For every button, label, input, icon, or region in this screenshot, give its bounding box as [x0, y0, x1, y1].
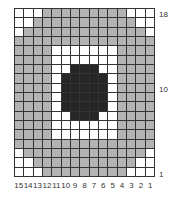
chart-cell — [52, 46, 61, 55]
col-label: 12 — [42, 181, 51, 190]
chart-cell — [80, 37, 89, 46]
chart-cell — [146, 158, 155, 167]
chart-cell — [146, 93, 155, 102]
chart-cell — [90, 46, 99, 55]
row-label-1: 1 — [159, 171, 163, 179]
chart-cell — [34, 65, 43, 74]
chart-cell — [146, 149, 155, 158]
chart-cell — [146, 140, 155, 149]
col-label: 3 — [127, 181, 136, 190]
chart-cell — [118, 46, 127, 55]
chart-cell — [146, 65, 155, 74]
chart-cell — [108, 112, 117, 121]
chart-cell — [136, 28, 145, 37]
chart-cell — [108, 65, 117, 74]
chart-cell — [118, 102, 127, 111]
chart-cell — [62, 37, 71, 46]
chart-cell — [52, 112, 61, 121]
chart-cell — [43, 65, 52, 74]
chart-cell — [15, 84, 24, 93]
chart-cell — [80, 140, 89, 149]
chart-cell — [80, 84, 89, 93]
chart-cell — [127, 37, 136, 46]
chart-cell — [80, 56, 89, 65]
chart-cell — [136, 102, 145, 111]
chart-cell — [24, 112, 33, 121]
chart-cell — [146, 74, 155, 83]
col-label: 11 — [52, 181, 61, 190]
chart-cell — [52, 18, 61, 27]
chart-cell — [146, 37, 155, 46]
chart-cell — [15, 102, 24, 111]
chart-cell — [146, 102, 155, 111]
chart-cell — [43, 102, 52, 111]
chart-cell — [99, 140, 108, 149]
col-label: 2 — [136, 181, 145, 190]
chart-cell — [136, 18, 145, 27]
chart-cell — [136, 93, 145, 102]
chart-cell — [99, 46, 108, 55]
chart-cell — [24, 65, 33, 74]
chart-cell — [71, 28, 80, 37]
chart-cell — [127, 46, 136, 55]
chart-cell — [71, 102, 80, 111]
chart-cell — [43, 140, 52, 149]
chart-cell — [99, 74, 108, 83]
chart-cell — [127, 84, 136, 93]
col-label: 15 — [14, 181, 23, 190]
chart-cell — [80, 9, 89, 18]
chart-cell — [108, 9, 117, 18]
chart-cell — [80, 158, 89, 167]
chart-cell — [24, 18, 33, 27]
chart-cell — [15, 56, 24, 65]
chart-cell — [118, 28, 127, 37]
chart-cell — [136, 121, 145, 130]
chart-cell — [52, 65, 61, 74]
chart-cell — [146, 84, 155, 93]
chart-cell — [146, 121, 155, 130]
chart-cell — [24, 140, 33, 149]
chart-cell — [34, 46, 43, 55]
chart-cell — [90, 9, 99, 18]
col-label: 6 — [99, 181, 108, 190]
chart-cell — [34, 37, 43, 46]
chart-cell — [118, 84, 127, 93]
chart-cell — [108, 74, 117, 83]
chart-cell — [118, 18, 127, 27]
chart-cell — [90, 56, 99, 65]
chart-cell — [99, 93, 108, 102]
chart-cell — [24, 130, 33, 139]
col-label: 4 — [117, 181, 126, 190]
chart-cell — [90, 130, 99, 139]
chart-cell — [118, 130, 127, 139]
chart-cell — [43, 74, 52, 83]
chart-cell — [127, 112, 136, 121]
col-label: 14 — [23, 181, 32, 190]
col-label: 8 — [80, 181, 89, 190]
chart-cell — [127, 121, 136, 130]
chart-cell — [80, 18, 89, 27]
chart-cell — [90, 37, 99, 46]
chart-cell — [80, 149, 89, 158]
chart-cell — [127, 56, 136, 65]
chart-cell — [43, 130, 52, 139]
chart-cell — [15, 9, 24, 18]
chart-cell — [99, 84, 108, 93]
chart-cell — [15, 93, 24, 102]
col-label: 9 — [70, 181, 79, 190]
chart-cell — [15, 28, 24, 37]
chart-cell — [15, 140, 24, 149]
chart-cell — [118, 93, 127, 102]
chart-cell — [62, 140, 71, 149]
chart-cell — [62, 102, 71, 111]
chart-cell — [43, 84, 52, 93]
chart-cell — [43, 158, 52, 167]
chart-cell — [52, 121, 61, 130]
chart-cell — [90, 158, 99, 167]
chart-cell — [34, 149, 43, 158]
chart-cell — [90, 65, 99, 74]
chart-cell — [15, 149, 24, 158]
chart-cell — [52, 84, 61, 93]
chart-cell — [43, 93, 52, 102]
chart-cell — [71, 140, 80, 149]
